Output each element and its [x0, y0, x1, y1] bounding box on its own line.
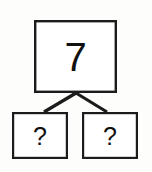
connector-line-left: [44, 93, 76, 112]
whole-value: 7: [64, 35, 86, 79]
diagram-canvas: 7 ? ?: [0, 0, 152, 172]
number-bond-diagram: 7 ? ?: [0, 0, 152, 172]
connector-line-right: [76, 93, 107, 112]
part-value-right: ?: [103, 122, 117, 150]
part-value-left: ?: [33, 122, 47, 150]
